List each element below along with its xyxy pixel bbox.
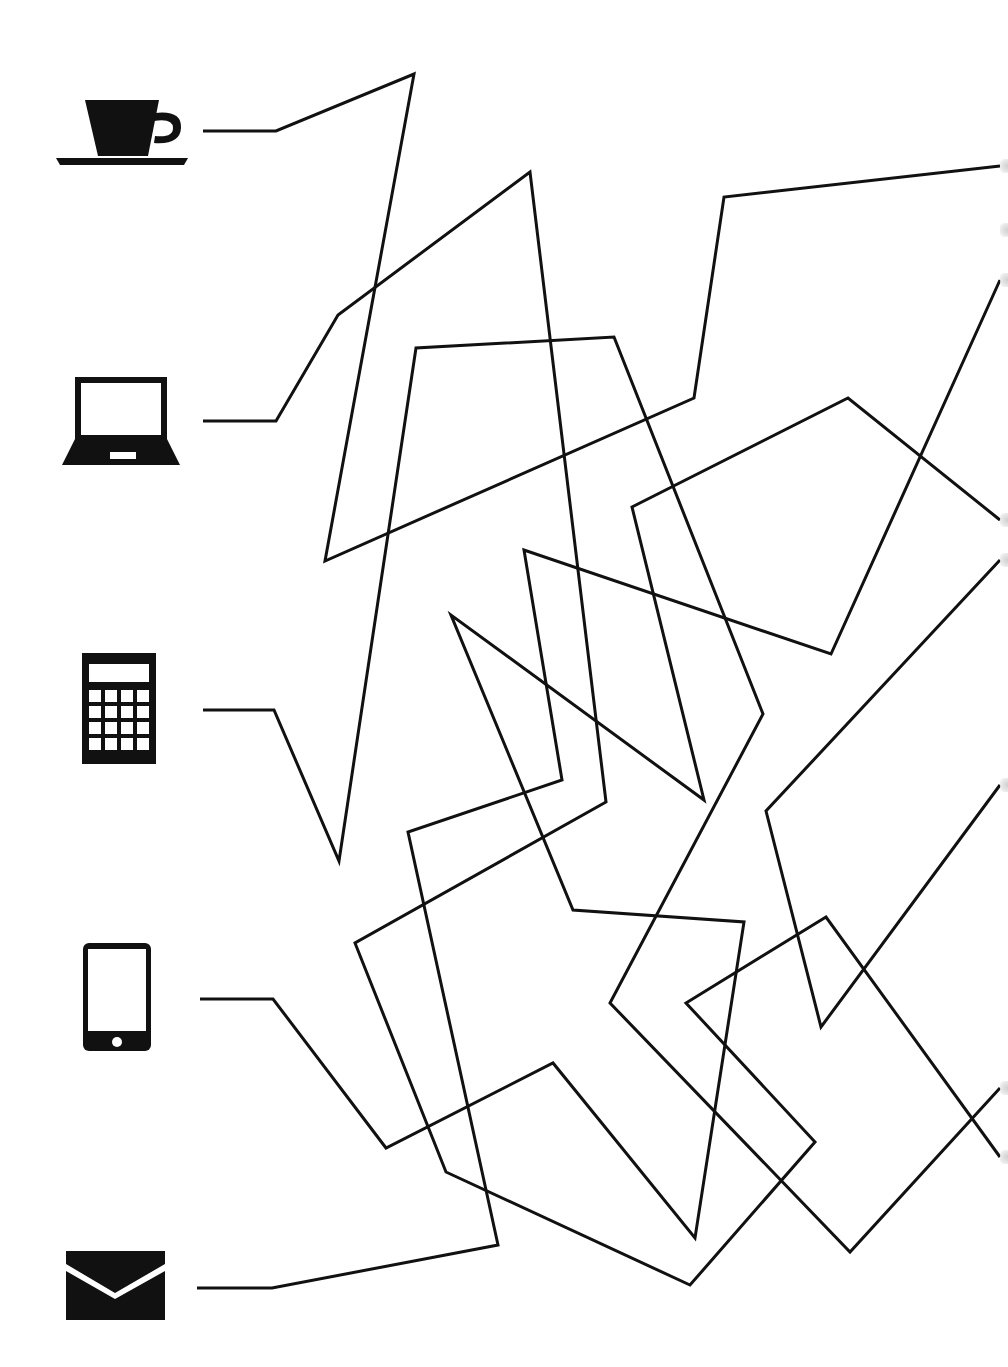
right-edge-endpoint: [1000, 778, 1008, 792]
right-edge-endpoint: [1000, 1150, 1008, 1164]
maze-path-mail[interactable]: [197, 280, 1000, 1288]
smartphone-icon[interactable]: Smartphone: [83, 942, 151, 1052]
right-edge-endpoint: [1000, 553, 1008, 567]
maze-puzzle: Coffee cup Laptop Calculator: [0, 0, 1008, 1367]
right-edge-endpoint: [1000, 513, 1008, 527]
right-edge-endpoint: [1000, 159, 1008, 173]
maze-path-right-edge[interactable]: [766, 560, 1000, 1027]
coffee-cup-icon[interactable]: Coffee cup: [56, 98, 188, 166]
maze-path-calculator[interactable]: [203, 337, 1000, 1252]
calculator-icon[interactable]: Calculator: [82, 653, 156, 764]
right-edge-endpoint: [1000, 1081, 1008, 1095]
envelope-icon[interactable]: Envelope: [66, 1251, 165, 1320]
right-edge-endpoint: [1000, 223, 1008, 237]
laptop-icon[interactable]: Laptop: [62, 376, 180, 466]
right-edge-endpoint: [1000, 273, 1008, 287]
maze-path-cup[interactable]: [203, 74, 1000, 561]
